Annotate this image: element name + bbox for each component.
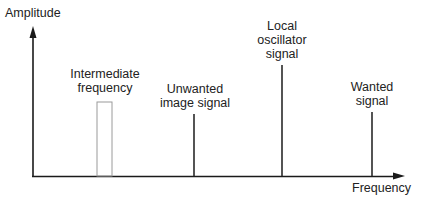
unwanted-image-signal-label-line-1: Unwanted (153, 82, 237, 96)
local-oscillator-signal-label-line-2: oscillator (250, 33, 314, 47)
frequency-axis (32, 173, 405, 180)
intermediate-frequency-label-line-2: frequency (66, 81, 144, 95)
local-oscillator-signal-label: Local oscillator signal (250, 19, 314, 61)
local-oscillator-signal-label-line-1: Local (250, 19, 314, 33)
local-oscillator-signal-label-line-3: signal (250, 47, 314, 61)
unwanted-image-signal-label-line-2: image signal (153, 96, 237, 110)
frequency-axis-label: Frequency (352, 181, 411, 195)
wanted-signal-label-line-2: signal (344, 94, 400, 108)
amplitude-axis (30, 26, 37, 177)
amplitude-axis-label: Amplitude (5, 6, 61, 20)
wanted-signal-label: Wanted signal (344, 80, 400, 108)
frequency-axis-arrow-icon (393, 173, 405, 180)
amplitude-axis-arrow-icon (30, 26, 37, 38)
intermediate-frequency-label: Intermediate frequency (66, 67, 144, 95)
wanted-signal-label-line-1: Wanted (344, 80, 400, 94)
unwanted-image-signal-label: Unwanted image signal (153, 82, 237, 110)
intermediate-frequency-bar (97, 102, 112, 176)
intermediate-frequency-label-line-1: Intermediate (66, 67, 144, 81)
